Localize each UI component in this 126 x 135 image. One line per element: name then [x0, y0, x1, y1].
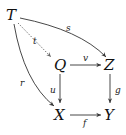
label-s: s	[66, 23, 71, 33]
node-X: X	[53, 106, 66, 124]
node-Q: Q	[54, 56, 66, 74]
node-Z: Z	[103, 56, 115, 74]
label-t: t	[33, 36, 37, 46]
label-u: u	[50, 85, 56, 95]
commutative-diagram: T Q Z X Y s t r v u g f	[0, 0, 126, 135]
label-g: g	[115, 85, 121, 95]
node-T: T	[6, 6, 17, 24]
label-f: f	[82, 118, 88, 128]
label-r: r	[20, 78, 25, 88]
node-Y: Y	[104, 106, 116, 124]
label-v: v	[83, 53, 88, 63]
